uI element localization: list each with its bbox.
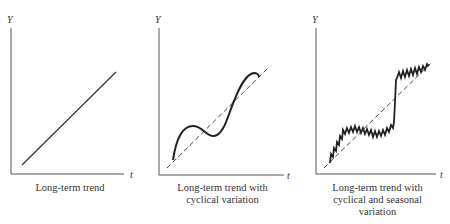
- caption-line: Long-term trend with: [160, 182, 285, 194]
- y-axis-label: Y: [312, 14, 318, 25]
- y-axis: [11, 28, 124, 174]
- cyclical-curve: [173, 73, 259, 160]
- caption-line: cyclical variation: [160, 194, 285, 206]
- axes: [159, 28, 284, 175]
- caption-trend-cyclical-seasonal: Long-term trend with cyclical and season…: [315, 182, 440, 218]
- caption-trend-cyclical: Long-term trend with cyclical variation: [160, 182, 285, 206]
- y-axis-label: Y: [155, 14, 161, 25]
- x-axis-label: t: [440, 169, 443, 180]
- trend-dashed-line: [324, 62, 432, 168]
- caption-line: Long-term trend with: [315, 182, 440, 194]
- panel-trend-cyclical: [159, 28, 284, 175]
- caption-trend: Long-term trend: [10, 182, 130, 194]
- caption-line: cyclical and seasonal: [315, 194, 440, 206]
- panel-trend-cyclical-seasonal: [316, 28, 436, 174]
- x-axis-label: t: [130, 169, 133, 180]
- trend-line: [22, 72, 116, 165]
- y-axis-label: Y: [7, 14, 13, 25]
- trend-dashed-line: [167, 69, 267, 168]
- caption-line: variation: [315, 206, 440, 218]
- caption-line: Long-term trend: [10, 182, 130, 194]
- panel-trend: [11, 28, 124, 174]
- x-axis-label: t: [287, 170, 290, 181]
